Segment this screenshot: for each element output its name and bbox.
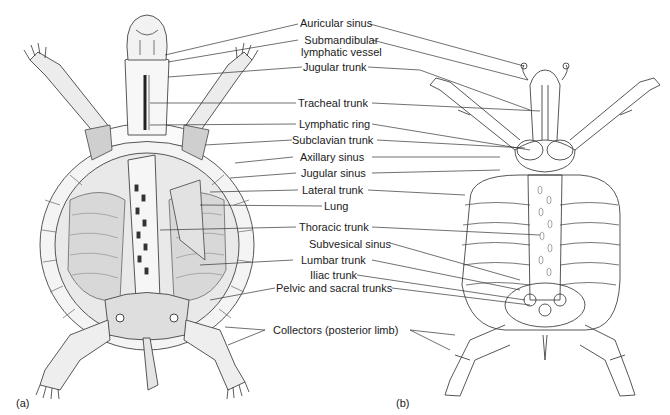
panel-b-drawing <box>430 63 660 396</box>
label-axillary-sinus: Axillary sinus <box>300 151 364 163</box>
label-jugular-sinus: Jugular sinus <box>301 167 366 179</box>
label-thoracic-trunk: Thoracic trunk <box>299 221 369 233</box>
label-auricular-sinus: Auricular sinus <box>300 17 372 29</box>
label-lung: Lung <box>324 200 348 212</box>
label-iliac-trunk: Iliac trunk <box>310 269 357 281</box>
label-submandibular-line2: lymphatic vessel <box>301 46 382 58</box>
label-subvesical-sinus: Subvesical sinus <box>309 238 391 250</box>
panel-a-tag: (a) <box>16 397 29 409</box>
turtle-lymphatic-figure: Auricular sinus Submandibular lymphatic … <box>0 0 670 415</box>
label-lumbar-trunk: Lumbar trunk <box>301 254 366 266</box>
label-pelvic-and-sacral-trunks: Pelvic and sacral trunks <box>276 282 392 294</box>
label-lateral-trunk: Lateral trunk <box>302 184 363 196</box>
label-tracheal-trunk: Tracheal trunk <box>298 97 368 109</box>
panel-b-tag: (b) <box>396 397 409 409</box>
label-submandibular-lymphatic-vessel: Submandibular lymphatic vessel <box>301 34 382 58</box>
label-jugular-trunk: Jugular trunk <box>303 61 367 73</box>
label-submandibular-line1: Submandibular <box>301 34 382 46</box>
label-subclavian-trunk: Subclavian trunk <box>292 134 373 146</box>
label-lymphatic-ring: Lymphatic ring <box>299 118 370 130</box>
label-collectors-posterior-limb: Collectors (posterior limb) <box>273 324 398 336</box>
